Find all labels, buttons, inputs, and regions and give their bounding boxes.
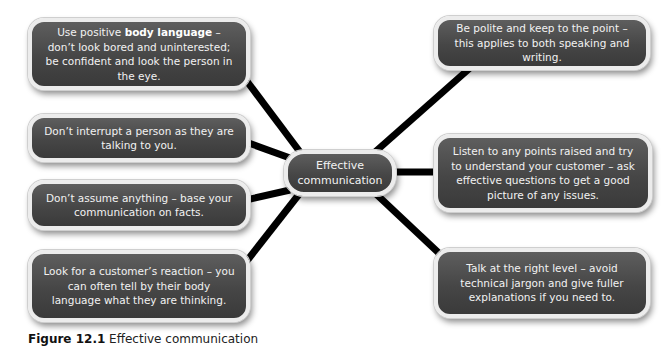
node-text: Don’t assume anything – base your commun… (42, 191, 236, 220)
node-be-polite: Be polite and keep to the point – this a… (434, 16, 650, 70)
node-dont-interrupt: Don’t interrupt a person as they are tal… (28, 114, 250, 162)
node-text: Look for a customer’s reaction – you can… (42, 264, 236, 308)
node-text: Talk at the right level – avoid technica… (448, 261, 636, 305)
connector-left-2 (246, 142, 290, 158)
node-text: Use positive body language – don’t look … (42, 25, 236, 83)
figure-title: Effective communication (105, 332, 258, 346)
connector-right-3 (375, 193, 442, 256)
node-customer-reaction: Look for a customer’s reaction – you can… (28, 250, 250, 322)
node-right-level: Talk at the right level – avoid technica… (434, 248, 650, 318)
node-text: Don’t interrupt a person as they are tal… (42, 124, 236, 153)
center-label: Effectivecommunication (297, 158, 382, 188)
node-listen: Listen to any points raised and try to u… (434, 134, 652, 212)
node-body-language: Use positive body language – don’t look … (28, 18, 250, 90)
node-dont-assume: Don’t assume anything – base your commun… (28, 180, 250, 230)
connector-left-4 (246, 193, 300, 262)
figure-number: Figure 12.1 (28, 332, 105, 346)
figure-caption: Figure 12.1 Effective communication (28, 332, 258, 346)
node-text: Listen to any points raised and try to u… (448, 144, 638, 202)
connector-left-1 (246, 80, 300, 152)
node-text: Be polite and keep to the point – this a… (448, 21, 636, 65)
connector-left-3 (246, 190, 290, 200)
node-center-effective-communication: Effectivecommunication (284, 150, 396, 196)
